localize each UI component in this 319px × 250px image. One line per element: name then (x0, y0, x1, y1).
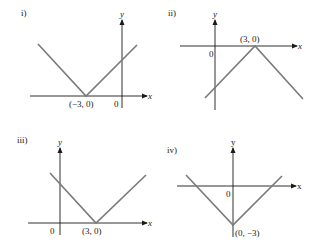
vertex-label: (3, 0) (240, 34, 260, 44)
origin-label: 0 (209, 49, 214, 59)
x-axis-label: x (297, 41, 302, 51)
y-axis-label: y (119, 9, 124, 19)
graph-figure: i) x y (−3, 0) 0 ii) x y (3, 0) 0 iii) x… (0, 0, 319, 250)
panel-label: iv) (167, 145, 177, 155)
absolute-value-curve (50, 173, 146, 223)
vertex-label: (3, 0) (82, 226, 102, 236)
vertex-label: (−3, 0) (69, 99, 94, 109)
panel-ii: ii) x y (3, 0) 0 (168, 8, 303, 110)
y-axis-label: y (231, 137, 236, 147)
origin-label: 0 (226, 189, 231, 199)
y-axis-label: y (57, 137, 62, 147)
vertex-label: (0, −3) (235, 228, 260, 238)
panel-iii: iii) x y (3, 0) 0 (17, 135, 152, 236)
panel-label: ii) (168, 8, 176, 18)
absolute-value-curve (186, 175, 282, 225)
panel-iv: iv) x y (0, −3) 0 (167, 137, 302, 238)
origin-label: 0 (50, 226, 55, 236)
x-axis-label: x (147, 218, 152, 228)
x-axis-label: x (297, 181, 302, 191)
panel-label: i) (21, 8, 27, 18)
panel-label: iii) (17, 135, 28, 145)
x-axis-label: x (147, 91, 152, 101)
absolute-value-curve (205, 46, 303, 99)
y-axis-label: y (212, 9, 217, 19)
panel-i: i) x y (−3, 0) 0 (21, 8, 152, 109)
origin-label: 0 (114, 99, 119, 109)
